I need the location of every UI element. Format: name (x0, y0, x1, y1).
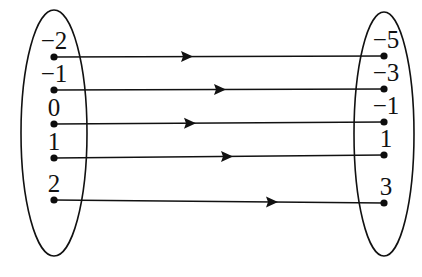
codomain-node-dot (380, 151, 387, 158)
codomain-node-element: −1 (373, 92, 400, 126)
domain-node-dot (50, 154, 57, 161)
domain-node-dot (50, 196, 57, 203)
arrow-line (54, 122, 384, 124)
codomain-node-dot (380, 199, 387, 206)
domain-node-label: 2 (48, 170, 61, 197)
domain-node-element: −1 (41, 60, 68, 94)
codomain-nodes: −5−3−113 (373, 26, 400, 207)
codomain-node-element: −5 (373, 26, 400, 60)
mapping-diagram-canvas: −2−1012 −5−3−113 (0, 0, 422, 277)
domain-node-element: 1 (48, 128, 61, 162)
mapping-diagram: −2−1012 −5−3−113 (0, 0, 422, 277)
mapping-arrow (54, 151, 384, 162)
domain-node-element: 2 (48, 170, 61, 204)
domain-node-element: −2 (41, 27, 68, 61)
codomain-node-element: 3 (380, 173, 393, 207)
arrow-line (54, 200, 384, 203)
arrow-line (54, 155, 384, 158)
mapping-arrow (54, 118, 384, 129)
domain-node-label: 0 (48, 94, 61, 121)
domain-node-label: −1 (41, 60, 68, 87)
arrow-line (54, 56, 384, 57)
domain-node-dot (50, 120, 57, 127)
codomain-node-label: 1 (380, 125, 393, 152)
codomain-node-element: −3 (373, 59, 400, 93)
mapping-arrow (54, 196, 384, 207)
domain-node-label: 1 (48, 128, 61, 155)
domain-node-element: 0 (48, 94, 61, 128)
mapping-arrow (54, 51, 384, 62)
domain-node-label: −2 (41, 27, 68, 54)
codomain-node-label: −1 (373, 92, 400, 119)
domain-nodes: −2−1012 (41, 27, 68, 204)
codomain-node-label: 3 (380, 173, 393, 200)
arrows-layer (54, 51, 384, 207)
mapping-arrow (54, 84, 384, 95)
codomain-node-element: 1 (380, 125, 393, 159)
codomain-node-label: −3 (373, 59, 400, 86)
codomain-node-label: −5 (373, 26, 400, 53)
domain-node-dot (50, 86, 57, 93)
